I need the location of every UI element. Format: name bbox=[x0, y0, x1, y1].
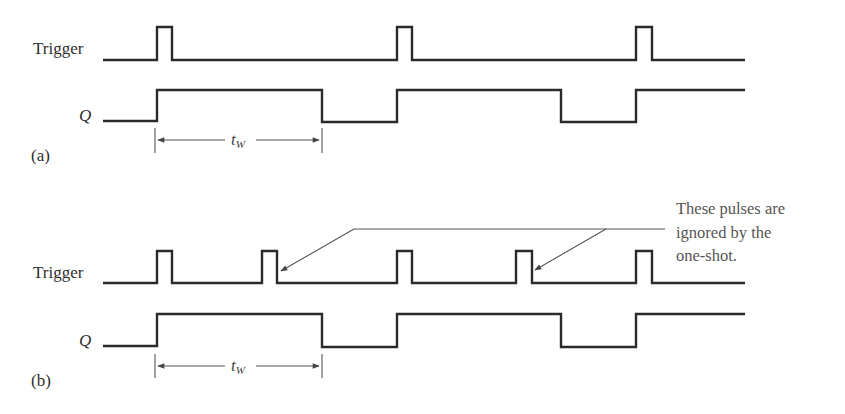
panel-b-q-label: Q bbox=[79, 332, 91, 349]
panel-a-trigger-waveform bbox=[103, 27, 745, 60]
panel-b-q-waveform bbox=[103, 314, 745, 347]
panel-a-q-label: Q bbox=[79, 107, 91, 124]
panel-b-label: (b) bbox=[31, 372, 51, 389]
panel-a-label: (a) bbox=[31, 147, 50, 164]
tw-subscript: W bbox=[236, 138, 245, 150]
panel-b-tw-label: tW bbox=[231, 357, 245, 376]
annotation-line-3: one-shot. bbox=[676, 244, 785, 268]
panel-a-q-waveform bbox=[103, 90, 745, 122]
panel-b-trigger-waveform bbox=[103, 251, 745, 283]
panel-a-trigger-label: Trigger bbox=[33, 40, 83, 57]
annotation-line-1: These pulses are bbox=[676, 197, 785, 221]
panel-b-trigger-label: Trigger bbox=[33, 264, 83, 281]
ignored-pulses-annotation: These pulses areignored by theone-shot. bbox=[676, 197, 785, 268]
panel-b-ignored-pulse-callout bbox=[281, 229, 665, 271]
tw-subscript: W bbox=[236, 364, 245, 376]
panel-a-tw-label: tW bbox=[231, 131, 245, 150]
annotation-line-2: ignored by the bbox=[676, 221, 785, 245]
one-shot-timing-diagram: Trigger Q (a) tW Trigger Q (b) tW These … bbox=[0, 0, 845, 414]
